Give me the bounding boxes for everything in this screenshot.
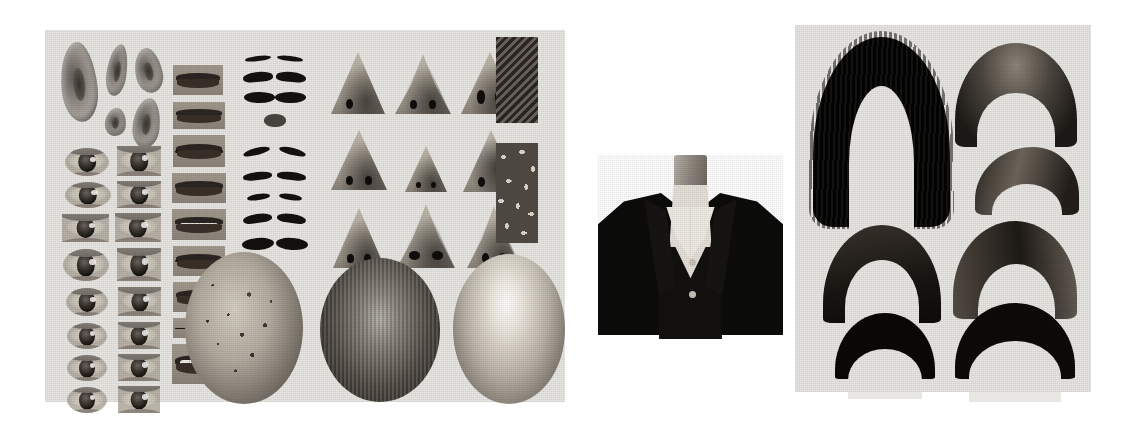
eye-r6c2 — [118, 322, 160, 349]
brow-pair-5-angled-right — [279, 145, 307, 158]
hair-textured-arch — [823, 225, 941, 323]
brow-pair-7-short-left — [247, 192, 271, 201]
swatch-diagonal-hatch — [496, 37, 538, 123]
brow-pair-2-thick-arch-right — [276, 71, 307, 84]
brow-pair-9-heavy-right — [276, 237, 309, 251]
ear-narrow — [103, 43, 130, 97]
head-smooth-specular — [453, 254, 565, 404]
brow-pair-3-bold-right — [275, 92, 306, 103]
eye-r8c2 — [118, 386, 160, 413]
eye-r1c1 — [65, 148, 109, 176]
head-brushed-metal — [320, 258, 440, 402]
nose-r3c2-wide-nostrils — [397, 204, 455, 268]
brow-pair-1-thin-right — [277, 54, 303, 62]
ear-round-upper — [131, 46, 167, 96]
ear-small — [104, 107, 127, 136]
mouth-5-broad-smile — [172, 209, 226, 240]
brow-pair-6-soft-arch-right — [277, 171, 307, 182]
ear-medium — [130, 97, 162, 150]
eye-r3c1 — [62, 214, 109, 242]
nose-r2c1-straight — [331, 130, 387, 190]
head-textured-rough — [185, 252, 303, 404]
ear-large-left — [57, 40, 101, 123]
shirt-button-top — [689, 259, 696, 266]
nose-r2c2-small — [405, 146, 447, 192]
torso-figure — [598, 155, 783, 335]
brow-pair-8-tapered-left — [243, 212, 273, 225]
eye-r6c1 — [67, 323, 107, 349]
brow-pair-4-small-blob — [264, 114, 286, 127]
swatch-scattered-glyphs — [496, 143, 538, 243]
nose-r1c2-broad — [395, 54, 451, 114]
mouth-3-parted — [173, 135, 225, 167]
eye-r2c1 — [65, 182, 111, 208]
hair-long-black-curly — [813, 37, 950, 227]
eye-r3c2 — [115, 213, 161, 242]
shirt-button-lower — [689, 291, 696, 298]
mouth-1-closed-dark — [173, 65, 223, 95]
brow-pair-9-heavy-left — [242, 237, 275, 251]
eye-r8c1 — [67, 387, 107, 413]
eye-r7c1 — [67, 355, 107, 381]
parts-sheet-panel — [45, 30, 565, 402]
brow-pair-2-thick-arch-left — [243, 71, 274, 84]
eye-r4c1 — [63, 249, 109, 281]
eye-r5c1 — [66, 288, 108, 316]
eye-r4c2 — [117, 248, 161, 281]
eye-r2c2 — [117, 181, 161, 208]
brow-pair-5-angled-left — [243, 145, 271, 158]
mouth-2-closed-wide — [173, 102, 225, 129]
brow-pair-1-thin-left — [245, 54, 271, 62]
eye-r7c2 — [118, 354, 160, 381]
eye-r5c2 — [118, 287, 161, 316]
brow-pair-8-tapered-right — [277, 212, 307, 225]
mouth-4-smile-teeth — [172, 173, 226, 203]
brow-pair-6-soft-arch-left — [243, 171, 273, 182]
hair-wavy-swept — [955, 43, 1077, 147]
brow-pair-3-bold-left — [244, 92, 275, 103]
nose-r1c1-narrow — [331, 52, 385, 114]
brow-pair-7-short-right — [279, 192, 303, 201]
hair-sheet-panel — [795, 25, 1091, 392]
eye-r1c2 — [117, 146, 161, 176]
